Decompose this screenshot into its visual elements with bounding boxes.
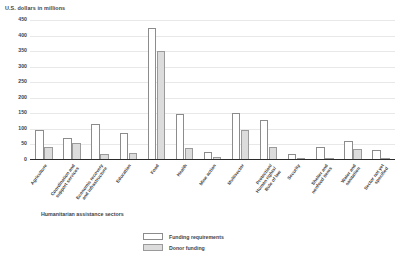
y-tick-label: 50 [21,142,27,147]
x-label-cell: Agriculture [30,161,58,206]
x-tick-label: Multisector [226,163,245,186]
x-label-cell: Sector not yetspecified [367,161,395,206]
bar-group [311,20,339,160]
bars-layer [30,20,395,160]
bar-group [142,20,170,160]
x-tick-label: Sector not yetspecified [363,163,390,194]
x-tick-label-line: Food [150,163,161,175]
legend-label: Funding requirements [169,234,224,240]
bar-group [339,20,367,160]
y-axis-title: U.S. dollars in millions [5,5,65,11]
x-tick-label: Shelter andnonfood items [306,163,333,195]
bar [148,28,157,160]
bar-group [170,20,198,160]
x-tick-label: Mine action [198,163,217,187]
x-label-cell: Economic recoveryand infrastructure [86,161,114,206]
x-axis-title: Humanitarian assistance sectors [41,211,124,217]
bar-group [367,20,395,160]
x-tick-label: Agriculture [30,163,49,186]
legend-swatch [143,244,163,252]
bar-group [58,20,86,160]
x-label-cell: Shelter andnonfood items [311,161,339,206]
bar [120,133,129,160]
y-tick-label: 400 [18,33,27,38]
chart-legend: Funding requirementsDonor funding [143,232,224,254]
legend-item: Funding requirements [143,232,224,241]
y-tick-label: 100 [18,126,27,131]
y-tick-label: 450 [18,17,27,22]
x-label-cell: Multisector [227,161,255,206]
bar [63,138,72,160]
y-tick-label: 150 [18,111,27,116]
bar-chart: U.S. dollars in millions 050100150200250… [0,0,406,263]
x-tick-label-line: Multisector [226,163,245,186]
x-tick-label-line: Agriculture [30,163,49,186]
bar [91,124,100,160]
bar-group [255,20,283,160]
bar-group [86,20,114,160]
bar-group [227,20,255,160]
x-tick-label: Education [115,163,132,184]
bar [157,51,166,160]
legend-item: Donor funding [143,243,224,252]
bar [344,141,353,160]
bar [72,143,81,160]
x-label-cell: Food [142,161,170,206]
bar-group [198,20,226,160]
bar-group [114,20,142,160]
bar-group [283,20,311,160]
x-label-cell: Water andsanitation [339,161,367,206]
y-tick-label: 350 [18,49,27,54]
x-tick-label: Water andsanitation [340,163,362,187]
legend-label: Donor funding [169,245,205,251]
x-tick-label: Security [286,163,301,181]
x-tick-label: Food [150,163,161,175]
x-tick-label-line: Security [286,163,301,181]
x-tick-label: Protection/Human rights/Rule of law [250,163,281,198]
x-axis-tick-labels: AgricultureCoordination andsupport servi… [30,161,395,206]
bar [232,113,241,160]
x-label-cell: Mine action [198,161,226,206]
x-label-cell: Protection/Human rights/Rule of law [255,161,283,206]
x-label-cell: Health [170,161,198,206]
bar [241,130,250,160]
legend-swatch [143,233,163,241]
plot-area: 050100150200250300350400450 [30,20,395,160]
bar-group [30,20,58,160]
y-tick-label: 250 [18,80,27,85]
x-tick-label-line: Health [176,163,189,178]
bar [260,120,269,160]
y-tick-label: 0 [24,157,27,162]
x-tick-label-line: Education [115,163,132,184]
bar [35,130,44,160]
x-label-cell: Education [114,161,142,206]
x-label-cell: Security [283,161,311,206]
x-axis-line [30,159,395,160]
y-tick-label: 300 [18,64,27,69]
x-tick-label: Health [176,163,189,178]
x-tick-label-line: Mine action [198,163,217,187]
bar [176,114,185,160]
y-tick-label: 200 [18,95,27,100]
